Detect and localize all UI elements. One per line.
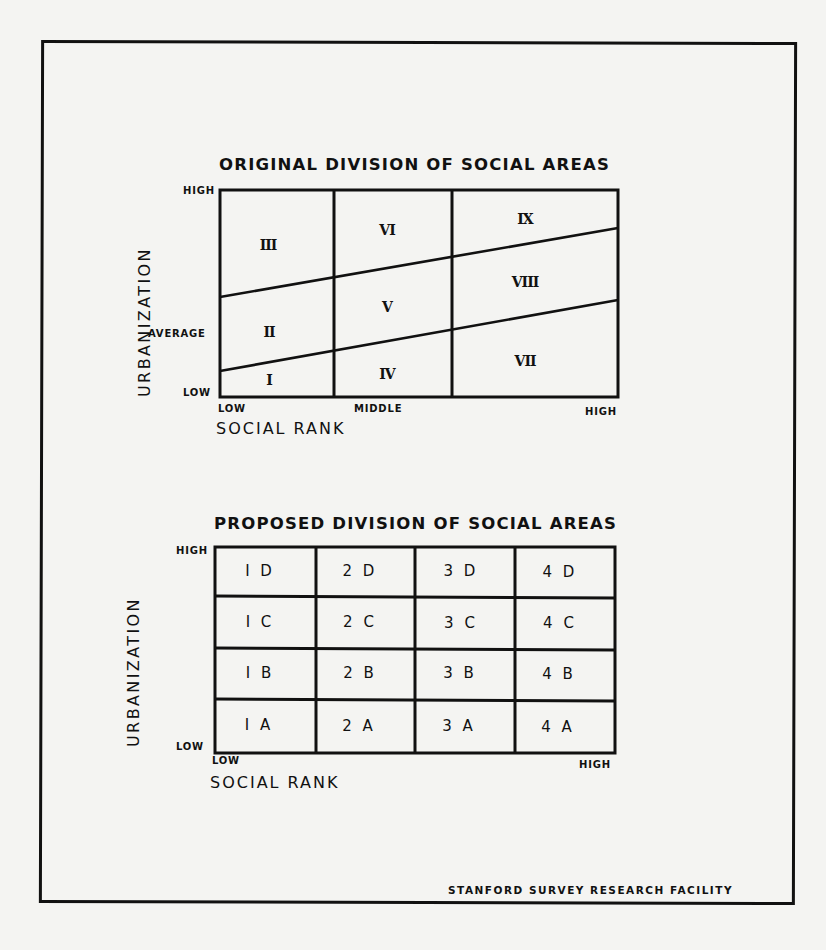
cell-4D: 4 D — [543, 563, 578, 581]
proposed-grid-lines — [0, 0, 826, 950]
cell-3B: 3 B — [443, 664, 477, 682]
cell-2C: 2 C — [343, 613, 377, 631]
cell-4C: 4 C — [543, 614, 577, 632]
cell-3C: 3 C — [444, 614, 478, 632]
cell-2B: 2 B — [343, 664, 377, 682]
proposed-x-tick-low: LOW — [212, 755, 240, 766]
footer-credit: STANFORD SURVEY RESEARCH FACILITY — [448, 884, 733, 896]
cell-2D: 2 D — [343, 562, 378, 580]
proposed-x-tick-high: HIGH — [579, 759, 611, 770]
proposed-y-tick-low: LOW — [176, 741, 204, 752]
cell-3A: 3 A — [442, 717, 476, 735]
cell-2A: 2 A — [342, 717, 376, 735]
cell-4B: 4 B — [542, 665, 576, 683]
proposed-x-axis-label: SOCIAL RANK — [210, 773, 339, 792]
cell-1C: I C — [246, 613, 275, 631]
cell-1B: I B — [246, 664, 274, 682]
proposed-y-tick-high: HIGH — [176, 545, 208, 556]
cell-4A: 4 A — [541, 718, 575, 736]
cell-3D: 3 D — [444, 562, 479, 580]
cell-1D: I D — [245, 562, 275, 580]
cell-1A: I A — [245, 716, 273, 734]
proposed-y-axis-label: URBANIZATION — [124, 597, 143, 747]
